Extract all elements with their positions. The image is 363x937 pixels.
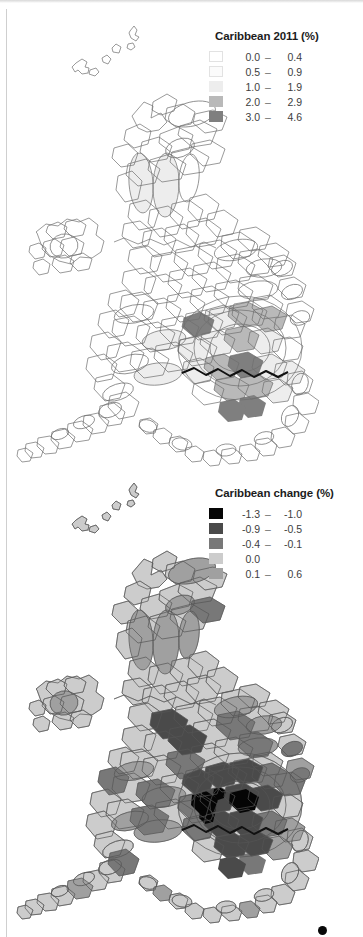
legend-range-high: 0.9: [276, 66, 302, 78]
legend-range-dash: –: [260, 66, 276, 78]
legend-item: -0.9 – -0.5: [209, 521, 359, 536]
legend-rows: -1.3 – -1.0 -0.9 – -0.5 -0.4 – -0.1: [209, 506, 359, 581]
legend-range-dash: –: [260, 81, 276, 93]
legend-item: 0.0: [209, 551, 359, 566]
legend-item: 0.1 – 0.6: [209, 566, 359, 581]
legend-range-dash: –: [260, 111, 276, 123]
legend-swatch: [209, 508, 223, 519]
legend-range-label: 1.0 – 1.9: [234, 81, 302, 93]
legend-swatch: [209, 553, 223, 564]
legend-range-low: -0.4: [234, 538, 260, 550]
legend-item: 3.0 – 4.6: [209, 109, 359, 124]
legend-range-high: 4.6: [276, 111, 302, 123]
legend-range-low: -0.9: [234, 523, 260, 535]
legend-range-high: -0.1: [276, 538, 302, 550]
legend-range-dash: –: [260, 568, 276, 580]
legend-range-dash: –: [260, 523, 276, 535]
map-panel-caribbean-2011: .river { stroke: #111111 !important; str…: [0, 0, 363, 480]
legend-range-label: 0.5 – 0.9: [234, 66, 302, 78]
legend-swatch: [209, 66, 223, 77]
legend-title: Caribbean 2011 (%): [215, 30, 359, 42]
map-panel-caribbean-change: Caribbean change (%) -1.3 – -1.0 -0.9 – …: [0, 457, 363, 937]
legend-swatch: [209, 51, 223, 62]
legend-range-value: 0.0: [234, 553, 260, 565]
legend-range-low: 2.0: [234, 96, 260, 108]
legend-range-high: -1.0: [276, 508, 302, 520]
legend-range-high: 2.9: [276, 96, 302, 108]
legend-item: 0.0 – 0.4: [209, 49, 359, 64]
legend-caribbean-change: Caribbean change (%) -1.3 – -1.0 -0.9 – …: [209, 487, 359, 581]
legend-range-dash: –: [260, 538, 276, 550]
legend-caribbean-2011: Caribbean 2011 (%) 0.0 – 0.4 0.5 – 0.9: [209, 30, 359, 124]
legend-range-low: 0.0: [234, 51, 260, 63]
legend-range-label: 0.1 – 0.6: [234, 568, 302, 580]
legend-range-high: -0.5: [276, 523, 302, 535]
legend-swatch: [209, 568, 223, 579]
legend-rows: 0.0 – 0.4 0.5 – 0.9 1.0 – 1.9: [209, 49, 359, 124]
legend-range-high: 0.6: [276, 568, 302, 580]
legend-range-low: 1.0: [234, 81, 260, 93]
legend-item: -1.3 – -1.0: [209, 506, 359, 521]
legend-range-low: 3.0: [234, 111, 260, 123]
legend-range-label: -0.9 – -0.5: [234, 523, 302, 535]
legend-swatch: [209, 538, 223, 549]
legend-item: 0.5 – 0.9: [209, 64, 359, 79]
legend-range-dash: –: [260, 96, 276, 108]
legend-swatch: [209, 111, 223, 122]
legend-range-label: -1.3 – -1.0: [234, 508, 302, 520]
legend-range-dash: –: [260, 51, 276, 63]
legend-swatch: [209, 81, 223, 92]
legend-range-low: -1.3: [234, 508, 260, 520]
legend-swatch: [209, 96, 223, 107]
legend-range-label: 3.0 – 4.6: [234, 111, 302, 123]
legend-item: 2.0 – 2.9: [209, 94, 359, 109]
legend-title: Caribbean change (%): [215, 487, 359, 499]
legend-range-high: 1.9: [276, 81, 302, 93]
legend-swatch: [209, 523, 223, 534]
legend-range-label: 2.0 – 2.9: [234, 96, 302, 108]
legend-range-dash: –: [260, 508, 276, 520]
legend-range-low: 0.1: [234, 568, 260, 580]
corner-marker-dot: [318, 926, 327, 935]
legend-range-high: 0.4: [276, 51, 302, 63]
legend-range-label: 0.0: [234, 553, 302, 565]
legend-item: -0.4 – -0.1: [209, 536, 359, 551]
legend-range-low: 0.5: [234, 66, 260, 78]
legend-range-label: -0.4 – -0.1: [234, 538, 302, 550]
legend-item: 1.0 – 1.9: [209, 79, 359, 94]
legend-range-label: 0.0 – 0.4: [234, 51, 302, 63]
